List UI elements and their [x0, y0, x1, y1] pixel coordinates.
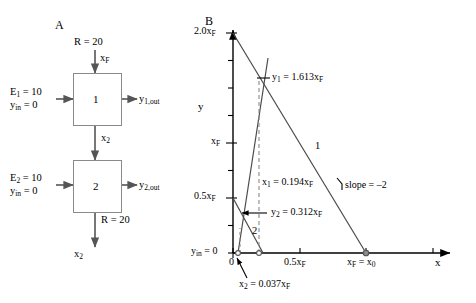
stage-2-right-stream: y2,out [139, 179, 159, 194]
x1-ann-tail: = 0.194x [271, 176, 309, 187]
x-tick-label-xF: xF = x0 [347, 256, 376, 269]
stage-1-right-stream: y1,out [139, 93, 159, 108]
stage-2-bottom-stream-var: x2 [74, 248, 83, 263]
stage-2-out-sub: 2,out [144, 183, 159, 192]
y-axis-title: y [198, 100, 204, 112]
x-tick-xF-tail: = x [356, 256, 372, 267]
xF-point-marker [363, 250, 369, 256]
stage-1-yin-val: = 0 [21, 99, 37, 110]
stage-1-out-sub: 1,out [144, 97, 159, 106]
x1-point-marker [257, 251, 262, 256]
y-axis-ticks [226, 33, 237, 253]
x1-annotation: x1 = 0.194xF [262, 176, 313, 189]
stage-1-e-val: = 10 [20, 86, 42, 97]
x2-ann-tail-sub: F [286, 282, 290, 291]
x-tick-half-sub: F [302, 260, 306, 269]
y2-ann-tail: = 0.312x [280, 206, 318, 217]
operating-line-chart: 2.0xF xF 0.5xF yin = 0 0 0.5xF xF = x0 y… [195, 0, 476, 303]
y-tick-label-xF: xF [211, 135, 220, 148]
series-2-line [238, 58, 268, 253]
x-tick-xF-tail-sub: 0 [372, 260, 376, 269]
stage-2-e-val: = 10 [20, 172, 42, 183]
y-tick-label-yin: yin = 0 [191, 245, 217, 258]
stage-2-bot-sub: 2 [79, 252, 83, 261]
stage-1-top-stream-label: R = 20 [74, 36, 103, 48]
panel-a: A 1 2 R = 20 xF E1 = 10 yin = 0 [0, 0, 195, 303]
y-tick-2xF-sub: F [212, 29, 216, 38]
y-tick-half-sub: F [212, 194, 216, 203]
x-tick-label-0: 0 [229, 256, 234, 267]
series-1-line [233, 33, 366, 253]
stage-1-top-var-sub: F [105, 56, 109, 65]
stage-1-bottom-stream: x2 [101, 132, 110, 147]
series-2-label: 2 [252, 225, 257, 236]
x1-ann-tail-sub: F [309, 180, 313, 189]
x2-annotation: x2 = 0.037xF [239, 278, 290, 291]
panel-b: B [195, 0, 476, 303]
x2-point-marker [236, 251, 241, 256]
x-axis-title: x [435, 256, 441, 268]
chart-canvas [195, 0, 476, 303]
slope-annotation: slope = –2 [345, 179, 387, 190]
y-tick-2xF-base: 2.0x [194, 25, 212, 36]
y-tick-label-2xF: 2.0xF [194, 25, 216, 38]
y-tick-yin-tail: = 0 [202, 245, 218, 256]
y2-annotation: y2 = 0.312xF [271, 206, 322, 219]
x2-leader [237, 258, 247, 278]
series-1-label: 1 [315, 140, 320, 151]
y-tick-label-half-xF: 0.5xF [194, 190, 216, 203]
stage-1-box-label: 1 [93, 93, 99, 105]
x-tick-half-base: 0.5x [284, 256, 302, 267]
y1-ann-tail-sub: F [319, 75, 323, 84]
stage-2-left-stream-yin: yin = 0 [10, 185, 38, 200]
y-tick-xF-sub: F [216, 139, 220, 148]
slope-leader [337, 178, 342, 190]
stage-1-top-stream-var: xF [100, 52, 109, 67]
x2-ann-tail: = 0.037x [248, 278, 286, 289]
y2-ann-tail-sub: F [318, 210, 322, 219]
stage-2-box-label: 2 [93, 180, 99, 192]
stage-1-left-stream-yin: yin = 0 [10, 99, 38, 114]
stage-1-bot-sub: 2 [106, 136, 110, 145]
stage-2-yin-val: = 0 [21, 185, 37, 196]
y1-annotation: y1 = 1.613xF [272, 71, 323, 84]
x-tick-label-half-xF: 0.5xF [284, 256, 306, 269]
stage-2-bottom-stream-label: R = 20 [101, 214, 130, 226]
y-tick-half-base: 0.5x [194, 190, 212, 201]
y1-ann-tail: = 1.613x [281, 71, 319, 82]
